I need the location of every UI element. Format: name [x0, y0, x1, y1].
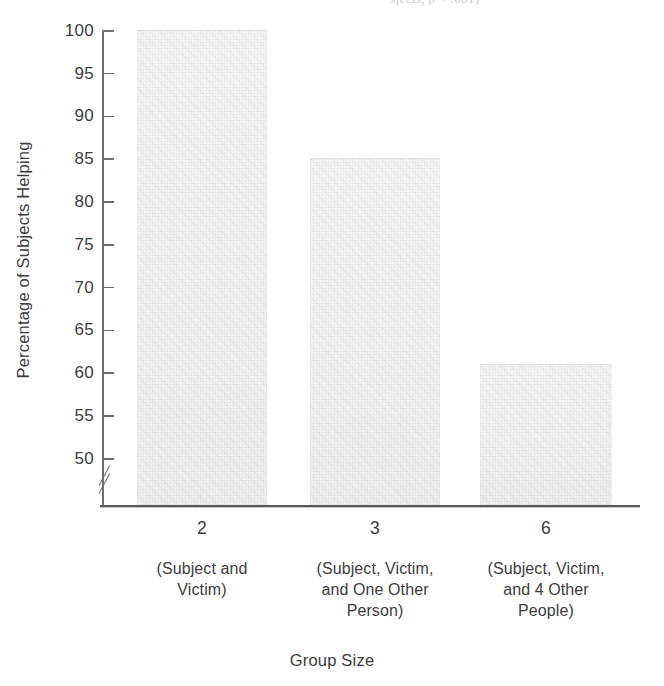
y-tick-label: 55 [74, 406, 94, 426]
bar-chart-figure: Percentage of Subjects Helping 100959085… [0, 0, 664, 686]
y-tick-label: 65 [74, 320, 94, 340]
x-category-description: (Subject, Victim,and 4 OtherPeople) [441, 558, 651, 621]
x-axis-title: Group Size [0, 651, 664, 670]
y-tick-label: 70 [74, 278, 94, 298]
y-tick-label: 75 [74, 235, 94, 255]
y-tick-mark: 55 [103, 415, 114, 417]
y-axis-break-icon [93, 466, 117, 492]
y-tick-label: 80 [74, 192, 94, 212]
y-tick-label: 100 [65, 21, 94, 41]
bar-2 [137, 30, 267, 505]
y-tick-mark: 90 [103, 116, 114, 118]
y-tick-label: 85 [74, 149, 94, 169]
x-axis-line [100, 505, 640, 507]
y-tick-mark: 80 [103, 201, 114, 203]
y-axis-line [102, 30, 104, 506]
y-tick-mark: 100 [103, 30, 114, 32]
y-tick-mark: 70 [103, 287, 114, 289]
y-tick-mark: 65 [103, 330, 114, 332]
plot-area: 10095908580757065605550 [102, 26, 642, 506]
y-tick-mark: 75 [103, 244, 114, 246]
bar-6 [480, 364, 612, 505]
y-axis-title: Percentage of Subjects Helping [14, 20, 40, 500]
y-tick-mark: 50 [103, 458, 114, 460]
x-category-description-line: (Subject, Victim, [441, 558, 651, 579]
y-tick-label: 90 [74, 106, 94, 126]
y-tick-mark: 60 [103, 372, 114, 374]
x-category-description-line: and 4 Other [441, 579, 651, 600]
x-category-6: 6(Subject, Victim,and 4 OtherPeople) [441, 510, 651, 621]
y-tick-label: 60 [74, 363, 94, 383]
y-tick-mark: 85 [103, 158, 114, 160]
bar-3 [310, 158, 440, 505]
y-tick-label: 50 [74, 449, 94, 469]
y-tick-label: 95 [74, 64, 94, 84]
x-category-description-line: People) [441, 600, 651, 621]
y-tick-mark: 95 [103, 73, 114, 75]
x-category-value: 6 [441, 510, 651, 538]
